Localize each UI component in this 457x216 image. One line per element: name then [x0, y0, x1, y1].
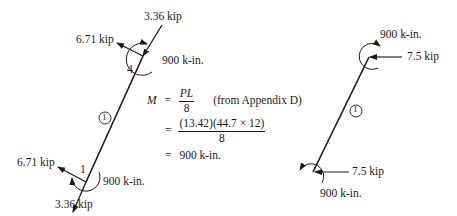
equation-line-1: M = PL 8 (from Appendix D)	[147, 88, 302, 114]
right-top-force-label: 7.5 kip	[407, 51, 439, 63]
left-top-shear-force-label: 6.71 kip	[76, 34, 114, 46]
joint-1-label: 1	[80, 164, 86, 176]
left-bottom-shear-force-label: 6.71 kip	[17, 157, 55, 169]
moment-result: 900 k-in.	[179, 149, 221, 161]
left-top-axial-force-label: 3.36 kip	[144, 11, 182, 23]
left-bottom-axial-force-label: 3.36 kip	[55, 199, 93, 211]
substitution-fraction: (13.42)(44.7 × 12) 8	[178, 118, 265, 144]
right-top-moment-label: 900 k-in.	[380, 29, 422, 41]
equation-line-2: = (13.42)(44.7 × 12) 8	[165, 118, 265, 144]
right-member	[300, 43, 402, 183]
left-top-moment-label: 900 k-in.	[162, 55, 204, 67]
member-1-label-left: 1	[102, 113, 107, 122]
right-bottom-moment-label: 900 k-in.	[320, 188, 362, 200]
pl-over-8-fraction: PL 8	[179, 88, 194, 114]
member-1-label-right: 1	[353, 105, 358, 114]
right-bottom-force-label: 7.5 kip	[352, 166, 384, 178]
joint-4-label: 4	[127, 64, 133, 76]
equation-line-3: = 900 k-in.	[165, 150, 221, 162]
moment-symbol: M	[147, 94, 157, 106]
left-bottom-moment-label: 900 k-in.	[103, 176, 145, 188]
appendix-note: (from Appendix D)	[213, 94, 302, 106]
